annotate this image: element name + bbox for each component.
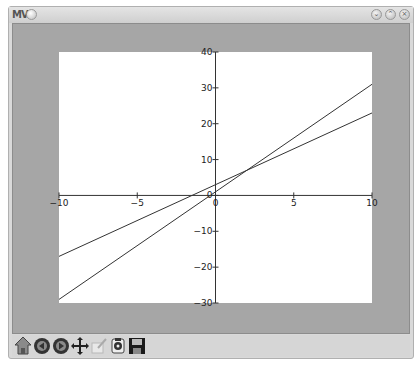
navigation-toolbar (12, 335, 410, 357)
zoom-rect-icon (90, 336, 108, 355)
title-bar[interactable]: MV ⌄ ⌃ × (9, 7, 413, 23)
configure-subplots-button[interactable] (109, 336, 127, 355)
x-tick-label: 10 (366, 198, 378, 208)
forward-button[interactable] (52, 336, 70, 355)
x-tick-label: 0 (213, 198, 219, 208)
close-button[interactable]: × (399, 9, 410, 20)
forward-arrow-icon (52, 336, 70, 355)
save-button[interactable] (128, 336, 146, 355)
pan-button[interactable] (71, 336, 89, 355)
y-tick-label: 30 (201, 83, 213, 93)
back-button[interactable] (33, 336, 51, 355)
minimize-button[interactable]: ⌄ (371, 9, 382, 20)
window-menu-button[interactable] (26, 9, 37, 20)
x-tick-label: 5 (291, 198, 297, 208)
figure-window: MV ⌄ ⌃ × −10−50510−30−20−10010203040 (8, 6, 414, 359)
home-button[interactable] (14, 336, 32, 355)
y-tick-label: 20 (201, 119, 213, 129)
y-tick-label: −20 (194, 262, 213, 272)
figure-canvas[interactable]: −10−50510−30−20−10010203040 (12, 23, 410, 334)
y-tick-label: 40 (201, 47, 213, 57)
app-icon: MV (12, 9, 24, 21)
x-tick-label: −5 (131, 198, 144, 208)
home-icon (14, 336, 32, 355)
maximize-button[interactable]: ⌃ (385, 9, 396, 20)
pan-cross-icon (71, 336, 89, 355)
y-tick-label: −10 (194, 226, 213, 236)
y-tick-label: 10 (201, 155, 213, 165)
zoom-rect-button[interactable] (90, 336, 108, 355)
x-tick-label: −10 (50, 198, 69, 208)
subplots-config-icon (109, 336, 127, 355)
y-tick-label: −30 (194, 298, 213, 308)
save-floppy-icon (128, 336, 146, 355)
back-arrow-icon (33, 336, 51, 355)
plot-svg: −10−50510−30−20−10010203040 (13, 24, 409, 333)
